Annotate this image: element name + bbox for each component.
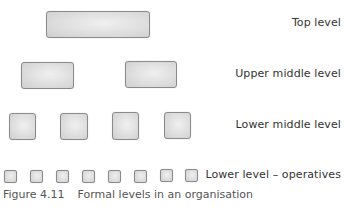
upper-middle-level-label: Upper middle level (235, 67, 341, 80)
top-level-label: Top level (292, 16, 341, 29)
operative-box (185, 169, 198, 182)
operative-box (82, 170, 95, 183)
upper-middle-box (125, 61, 177, 88)
lower-middle-box (112, 112, 139, 140)
operative-box (134, 170, 147, 183)
lower-middle-box (9, 113, 36, 140)
lower-middle-level-label: Lower middle level (236, 118, 341, 131)
figure-number: Figure 4.11 (3, 188, 65, 201)
operative-box (4, 170, 17, 183)
figure-caption: Figure 4.11Formal levels in an organisat… (3, 188, 253, 201)
lower-middle-box (60, 113, 88, 140)
figure-caption-text: Formal levels in an organisation (78, 188, 253, 201)
operative-box (108, 170, 121, 183)
top-level-box (46, 11, 150, 38)
operative-box (56, 170, 69, 183)
lower-level-label: Lower level – operatives (205, 168, 341, 181)
lower-middle-box (164, 112, 191, 139)
upper-middle-box (21, 62, 74, 89)
operative-box (30, 170, 43, 183)
operative-box (160, 169, 173, 182)
